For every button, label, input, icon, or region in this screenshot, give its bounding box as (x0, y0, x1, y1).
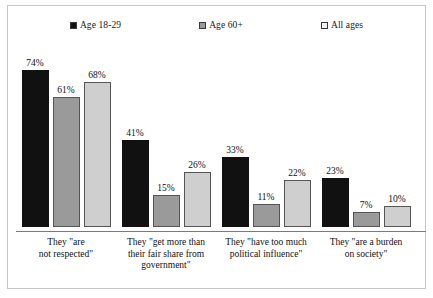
legend-label-age-18-29: Age 18-29 (80, 20, 121, 30)
bar-value: 22% (288, 169, 305, 179)
bar-fair-share-all-ages: 26% (184, 44, 211, 227)
bar-political-influence-age-60-plus: 11% (253, 44, 280, 227)
bar-rect (253, 204, 280, 227)
bar-not-respected-age-18-29: 74% (22, 44, 49, 227)
bar-not-respected-age-60-plus: 61% (53, 44, 80, 227)
x-axis-labels: They "arenot respected" They "get more t… (16, 237, 416, 272)
bar-value: 74% (26, 59, 43, 69)
bar-rect (322, 178, 349, 227)
legend-item-age-18-29: Age 18-29 (70, 20, 121, 30)
bar-rect (22, 70, 49, 227)
bar-group-not-respected: 74% 61% 68% (16, 44, 116, 227)
legend-item-age-60-plus: Age 60+ (199, 20, 243, 30)
bar-not-respected-all-ages: 68% (84, 44, 111, 227)
bar-burden-all-ages: 10% (384, 44, 411, 227)
bar-rect (53, 97, 80, 227)
bar-value: 41% (126, 129, 143, 139)
bar-group-burden-on-society: 23% 7% 10% (316, 44, 416, 227)
bar-rect (153, 195, 180, 227)
legend-label-age-60-plus: Age 60+ (209, 20, 243, 30)
chart-legend: Age 18-29 Age 60+ All ages (8, 20, 425, 30)
bar-rect (184, 172, 211, 227)
bar-burden-age-60-plus: 7% (353, 44, 380, 227)
bar-value: 23% (326, 167, 343, 177)
bar-rect (122, 140, 149, 227)
bar-political-influence-all-ages: 22% (284, 44, 311, 227)
x-axis-line (16, 231, 426, 232)
bar-value: 61% (57, 86, 74, 96)
bar-fair-share-age-60-plus: 15% (153, 44, 180, 227)
bar-political-influence-age-18-29: 33% (222, 44, 249, 227)
bar-value: 11% (257, 193, 274, 203)
bar-rect (284, 180, 311, 227)
filled-black-square-icon (70, 22, 77, 29)
bar-value: 10% (388, 195, 405, 205)
axis-label-fair-share: They "get more thantheir fair share from… (116, 237, 216, 272)
legend-item-all-ages: All ages (321, 20, 363, 30)
bar-value: 68% (88, 71, 105, 81)
bar-value: 7% (360, 201, 373, 211)
bar-value: 33% (226, 146, 243, 156)
filled-gray-square-icon (199, 22, 206, 29)
bar-rect (222, 157, 249, 227)
bar-group-political-influence: 33% 11% 22% (216, 44, 316, 227)
bar-rect (84, 82, 111, 227)
bar-group-fair-share: 41% 15% 26% (116, 44, 216, 227)
bar-value: 26% (188, 161, 205, 171)
bar-value: 15% (157, 184, 174, 194)
bar-rect (384, 206, 411, 227)
outlined-square-icon (321, 22, 328, 29)
bar-fair-share-age-18-29: 41% (122, 44, 149, 227)
legend-label-all-ages: All ages (331, 20, 363, 30)
bar-rect (353, 212, 380, 227)
axis-label-burden-on-society: They "are a burdenon society" (316, 237, 416, 272)
axis-label-not-respected: They "arenot respected" (16, 237, 116, 272)
chart-container: Age 18-29 Age 60+ All ages 74% 61% 68% (7, 5, 426, 289)
bar-burden-age-18-29: 23% (322, 44, 349, 227)
plot-area: 74% 61% 68% 41% 15% 26% (16, 44, 416, 227)
axis-label-political-influence: They "have too muchpolitical influence" (216, 237, 316, 272)
